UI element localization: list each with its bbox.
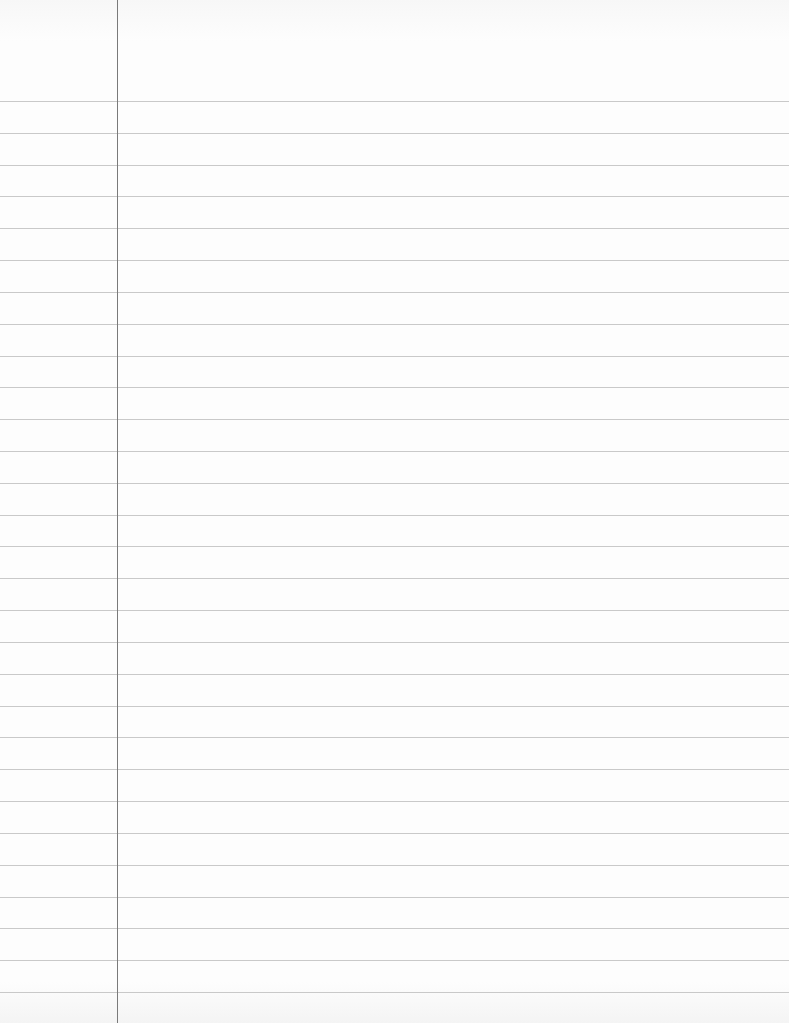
ruled-line	[0, 101, 789, 102]
ruled-line	[0, 515, 789, 516]
ruled-line	[0, 228, 789, 229]
ruled-line	[0, 737, 789, 738]
ruled-line	[0, 865, 789, 866]
ruled-line	[0, 196, 789, 197]
ruled-line	[0, 419, 789, 420]
ruled-line	[0, 674, 789, 675]
ruled-line	[0, 706, 789, 707]
ruled-line	[0, 165, 789, 166]
ruled-line	[0, 292, 789, 293]
ruled-line	[0, 133, 789, 134]
ruled-line	[0, 897, 789, 898]
ruled-line	[0, 483, 789, 484]
ruled-line	[0, 769, 789, 770]
ruled-line	[0, 260, 789, 261]
notebook-paper	[0, 0, 789, 1023]
ruled-line	[0, 451, 789, 452]
ruled-line	[0, 928, 789, 929]
margin-line	[117, 0, 118, 1023]
ruled-line	[0, 387, 789, 388]
ruled-line	[0, 960, 789, 961]
ruled-line	[0, 578, 789, 579]
ruled-line	[0, 801, 789, 802]
ruled-line	[0, 610, 789, 611]
ruled-line	[0, 356, 789, 357]
ruled-line	[0, 642, 789, 643]
ruled-line	[0, 546, 789, 547]
ruled-line	[0, 324, 789, 325]
ruled-line	[0, 992, 789, 993]
ruled-line	[0, 833, 789, 834]
